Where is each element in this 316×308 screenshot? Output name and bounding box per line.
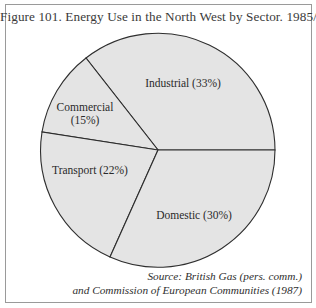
label-transport: Transport (22%) <box>52 164 128 177</box>
label-commercial-line1: Commercial <box>57 101 114 113</box>
source-line-1: Source: British Gas (pers. comm.) <box>72 269 302 283</box>
label-commercial-line2: (15%) <box>71 114 100 127</box>
source-note: Source: British Gas (pers. comm.) and Co… <box>72 269 302 297</box>
pie-chart: Industrial (33%) Commercial (15%) Transp… <box>0 0 316 308</box>
source-line-2: and Commission of European Communities (… <box>72 283 302 297</box>
label-domestic: Domestic (30%) <box>156 209 232 222</box>
label-industrial: Industrial (33%) <box>145 77 221 90</box>
